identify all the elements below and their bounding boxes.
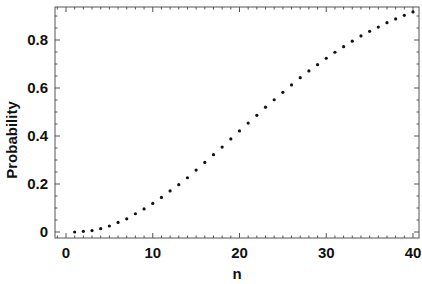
data-point [307,69,310,72]
data-point [221,145,224,148]
y-axis-ticks: 00.20.40.60.8 [27,16,419,240]
data-point [342,45,345,48]
data-point [160,196,163,199]
data-point [82,230,85,233]
data-point [169,189,172,192]
data-point [116,221,119,224]
data-point [394,17,397,20]
data-point [385,21,388,24]
data-point [99,227,102,230]
data-point [325,57,328,60]
data-point [212,153,215,156]
scatter-chart: 010203040 00.20.40.60.8 n Probability [0,0,422,284]
y-tick-label: 0.8 [27,31,48,48]
data-point [151,202,154,205]
data-points [73,10,415,233]
data-point [403,14,406,17]
y-tick-label: 0.6 [27,79,48,96]
x-axis-ticks: 010203040 [57,7,421,261]
data-point [359,34,362,37]
data-point [368,30,371,33]
data-point [290,83,293,86]
x-tick-label: 30 [318,244,335,261]
data-point [255,114,258,117]
data-point [333,51,336,54]
data-point [299,76,302,79]
data-point [177,183,180,186]
y-axis-label: Probability [3,101,20,179]
data-point [142,207,145,210]
data-point [377,25,380,28]
y-tick-label: 0 [40,223,48,240]
data-point [125,217,128,220]
x-tick-label: 0 [62,244,70,261]
data-point [108,224,111,227]
data-point [238,129,241,132]
data-point [90,229,93,232]
data-point [411,10,414,13]
y-tick-label: 0.2 [27,175,48,192]
data-point [264,106,267,109]
data-point [351,40,354,43]
x-axis-label: n [232,265,241,282]
data-point [229,137,232,140]
data-point [73,230,76,233]
plot-area-frame [55,7,419,238]
data-point [203,161,206,164]
data-point [273,98,276,101]
data-point [281,91,284,94]
data-point [316,63,319,66]
x-tick-label: 10 [144,244,161,261]
x-tick-label: 40 [405,244,422,261]
y-tick-label: 0.4 [27,127,49,144]
x-tick-label: 20 [231,244,248,261]
data-point [134,212,137,215]
data-point [195,168,198,171]
data-point [247,121,250,124]
data-point [186,176,189,179]
